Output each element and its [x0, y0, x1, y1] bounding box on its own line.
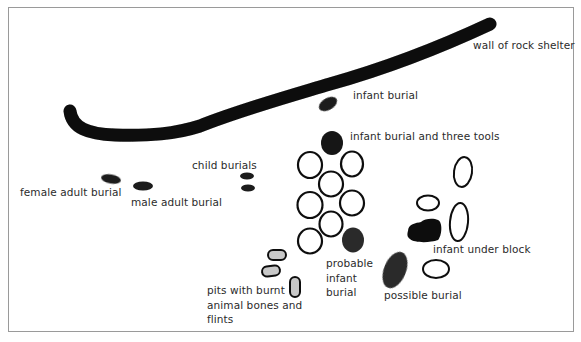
label-probable-infant-burial: probable infant burial: [326, 256, 373, 300]
label-possible-burial: possible burial: [384, 288, 462, 303]
probable-infant-burial-marker: [342, 228, 364, 253]
infant-under-block-marker: [407, 219, 441, 242]
label-wall-of-rock-shelter: wall of rock shelter: [473, 38, 575, 53]
label-child-burials: child burials: [192, 158, 257, 173]
rock-shelter-wall: [70, 24, 490, 135]
male-adult-burial-marker: [133, 182, 153, 191]
label-pits-burnt-bones-flints: pits with burnt animal bones and flints: [207, 283, 302, 327]
label-infant-burial: infant burial: [353, 88, 418, 103]
label-infant-burial-three-tools: infant burial and three tools: [350, 129, 500, 144]
infant-burial-tools-marker: [321, 131, 343, 155]
infant-burial-marker: [316, 94, 339, 114]
child-burial-marker-1: [240, 173, 254, 180]
label-infant-under-block: infant under block: [433, 242, 531, 257]
label-female-adult-burial: female adult burial: [20, 185, 121, 200]
female-adult-burial-marker: [100, 173, 121, 185]
possible-burial-marker: [378, 248, 413, 291]
child-burial-marker-2: [241, 185, 255, 192]
right-stones: [417, 156, 474, 278]
label-male-adult-burial: male adult burial: [131, 195, 222, 210]
